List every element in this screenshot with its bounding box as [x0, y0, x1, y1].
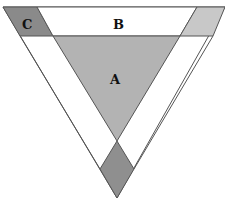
label-c: C	[22, 17, 32, 32]
label-a: A	[109, 72, 121, 87]
label-b: B	[113, 17, 124, 32]
triangle-diagram: C B A	[0, 0, 225, 205]
